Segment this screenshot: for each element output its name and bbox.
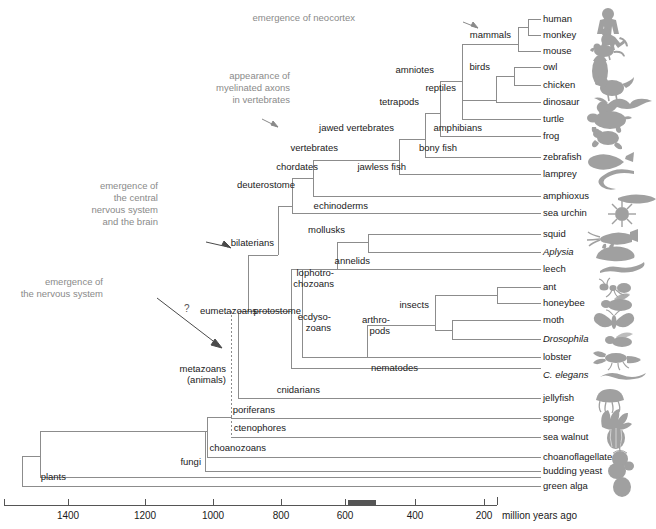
annotation-label: emergence of neocortex xyxy=(215,12,355,24)
leaf-label: dinosaur xyxy=(543,96,579,107)
amphioxus-silhouette xyxy=(618,194,656,203)
aplysia-silhouette xyxy=(596,243,635,261)
leaf-label: monkey xyxy=(543,29,576,40)
internal-node-label: lophotro- chozoans xyxy=(206,267,334,289)
leech-silhouette xyxy=(600,262,645,273)
internal-node-label: plants xyxy=(0,471,66,482)
internal-node-label: mollusks xyxy=(217,224,345,235)
internal-node-label: jawed vertebrates xyxy=(266,122,394,133)
axis-tick-label: 1400 xyxy=(48,510,88,521)
internal-node-label: poriferans xyxy=(147,404,275,415)
axis-unit-label: million years ago xyxy=(502,510,577,521)
leaf-label: choanoflagellate xyxy=(543,451,612,462)
drosophila-silhouette xyxy=(605,333,633,347)
leaf-label: moth xyxy=(543,314,564,325)
chicken-silhouette xyxy=(595,76,634,101)
leaf-label: Drosophila xyxy=(543,333,588,344)
leaf-label: budding yeast xyxy=(543,465,602,476)
internal-node-label: choanozoans xyxy=(138,442,266,453)
internal-node-label: eumetazoans xyxy=(129,305,257,316)
internal-node-label: chordates xyxy=(190,161,318,172)
leaf-label: amphioxus xyxy=(543,190,589,201)
leaf-label: lobster xyxy=(543,351,572,362)
axis-tick-label: 600 xyxy=(325,510,365,521)
sponge-silhouette xyxy=(601,409,632,430)
budding-yeast-silhouette xyxy=(608,462,634,480)
lamprey-silhouette xyxy=(598,169,634,189)
sea-walnut-silhouette xyxy=(607,427,625,449)
leaf-label: ant xyxy=(543,281,556,292)
leaf-label: zebrafish xyxy=(543,151,582,162)
internal-node-label: arthro- pods xyxy=(262,314,390,336)
internal-node-label: ctenophores xyxy=(158,422,286,433)
annotation-label: emergence of the central nervous system … xyxy=(18,180,158,228)
leaf-label: sea urchin xyxy=(543,207,587,218)
internal-node-label: tetrapods xyxy=(291,96,419,107)
lobster-silhouette xyxy=(593,351,641,370)
internal-node-label: nematodes xyxy=(290,362,418,373)
internal-node-label: reptiles xyxy=(328,82,456,93)
leaf-label: chicken xyxy=(543,79,575,90)
leaf-label: squid xyxy=(543,228,566,239)
leaf-label: mouse xyxy=(543,45,572,56)
internal-node-label: amniotes xyxy=(306,64,434,75)
leaf-label: green alga xyxy=(543,480,588,491)
leaf-label: owl xyxy=(543,61,557,72)
leaf-label: sponge xyxy=(543,412,574,423)
internal-node-label: mammals xyxy=(383,29,511,40)
internal-node-label: deuterostome xyxy=(167,179,295,190)
leaf-label: C. elegans xyxy=(543,369,588,380)
internal-node-label: annelids xyxy=(242,255,370,266)
leaf-label: turtle xyxy=(543,113,564,124)
uncertainty-question-mark: ? xyxy=(184,303,190,314)
internal-node-label: insects xyxy=(301,299,429,310)
jellyfish-silhouette xyxy=(596,389,624,413)
internal-node-label: vertebrates xyxy=(210,142,338,153)
axis-tick-label: 1000 xyxy=(193,510,233,521)
leaf-label: frog xyxy=(543,130,559,141)
axis-tick-label: 400 xyxy=(395,510,435,521)
green-alga-silhouette xyxy=(613,477,631,497)
internal-node-label: fungi xyxy=(73,456,201,467)
axis-tick-label: 1200 xyxy=(125,510,165,521)
zebrafish-silhouette xyxy=(588,152,634,170)
turtle-silhouette xyxy=(587,111,632,133)
leaf-label: leech xyxy=(543,263,566,274)
leaf-label: honeybee xyxy=(543,297,585,308)
c-elegans-silhouette xyxy=(600,373,646,380)
leaf-label: Aplysia xyxy=(543,246,574,257)
leaf-label: sea walnut xyxy=(543,431,588,442)
internal-node-label: cnidarians xyxy=(192,384,320,395)
phylogenetic-tree-figure: humanmonkeymouseowlchickendinosaurturtle… xyxy=(0,0,656,529)
internal-node-label: metazoans (animals) xyxy=(98,363,226,385)
annotation-label: emergence of the nervous system xyxy=(0,276,103,300)
internal-node-label: bilaterians xyxy=(146,237,274,248)
annotation-label: appearance of myelinated axons in verteb… xyxy=(150,70,290,106)
leaf-label: lamprey xyxy=(543,168,577,179)
leaf-label: jellyfish xyxy=(543,392,574,403)
leaf-label: human xyxy=(543,13,572,24)
axis-tick-label: 200 xyxy=(464,510,504,521)
sea-urchin-silhouette xyxy=(608,201,636,227)
internal-node-label: bony fish xyxy=(329,142,457,153)
moth-silhouette xyxy=(594,310,634,329)
axis-tick-label: 800 xyxy=(261,510,301,521)
internal-node-label: echinoderms xyxy=(240,200,368,211)
